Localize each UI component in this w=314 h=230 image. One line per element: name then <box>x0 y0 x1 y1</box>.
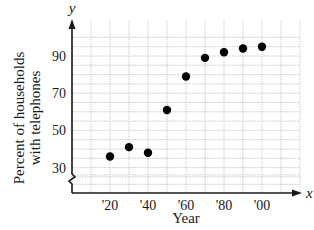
y-axis-title-line-1: Percent of households <box>11 52 27 185</box>
y-axis-line <box>69 26 75 193</box>
axes <box>69 19 303 197</box>
y-axis-arrow-icon <box>69 19 76 29</box>
data-point <box>239 44 247 52</box>
x-tick-label: '80 <box>216 198 233 213</box>
x-axis-title: Year <box>172 210 200 226</box>
data-point <box>182 72 190 80</box>
x-tick-label: '20 <box>102 198 119 213</box>
y-axis-title-line-2: with telephones <box>27 71 43 166</box>
x-axis-symbol: x <box>305 185 313 201</box>
data-point <box>163 106 171 114</box>
data-point <box>106 152 114 160</box>
data-point <box>125 143 133 151</box>
y-axis-symbol: y <box>67 0 76 16</box>
y-axis-title: Percent of households with telephones <box>11 52 43 185</box>
data-point <box>220 48 228 56</box>
data-point <box>144 149 152 157</box>
x-tick-label: '00 <box>254 198 271 213</box>
scatter-chart: y x 30507090 '20'40'60'80'00 Year Percen… <box>0 0 314 230</box>
x-tick-label: '40 <box>140 198 157 213</box>
data-point <box>258 43 266 51</box>
y-tick-labels: 30507090 <box>52 49 66 176</box>
y-tick-label: 50 <box>52 123 66 138</box>
data-point <box>201 54 209 62</box>
y-tick-label: 70 <box>52 86 66 101</box>
y-tick-label: 90 <box>52 49 66 64</box>
y-tick-label: 30 <box>52 161 66 176</box>
x-axis-arrow-icon <box>292 190 302 197</box>
